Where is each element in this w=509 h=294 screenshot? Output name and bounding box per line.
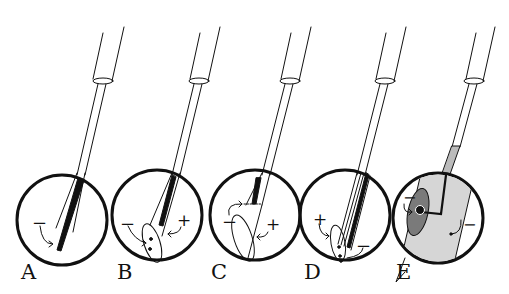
panel-label-b: B bbox=[117, 262, 132, 283]
sign-plus-b: + bbox=[177, 210, 191, 230]
panel-label-d: D bbox=[304, 262, 321, 283]
sign-minus-a: − bbox=[32, 212, 47, 233]
sign-minus-b: − bbox=[120, 213, 135, 234]
panel-e bbox=[393, 27, 495, 290]
sign-minus-e1: − bbox=[403, 188, 416, 207]
diagram-canvas: − − + − + + − − − bbox=[0, 0, 509, 294]
inset-circle-a bbox=[17, 175, 107, 265]
panel-label-e: E bbox=[396, 262, 411, 283]
panel-label-a: A bbox=[21, 262, 36, 283]
sign-plus-c: + bbox=[266, 214, 280, 234]
panel-label-c: C bbox=[211, 262, 227, 283]
sign-minus-e2: − bbox=[463, 215, 476, 234]
figure: − − + − + + − − − A B C D E bbox=[0, 0, 509, 294]
sign-plus-d: + bbox=[313, 209, 327, 229]
sign-minus-c: − bbox=[222, 211, 237, 232]
sign-minus-d: − bbox=[356, 235, 371, 256]
